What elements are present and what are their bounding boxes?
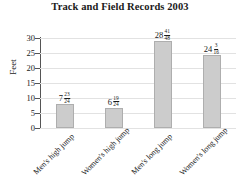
chart-title: Track and Field Records 2003 (0, 1, 240, 12)
y-axis-tick-mark (35, 83, 40, 84)
x-axis-category-label: Women's high jump (80, 132, 126, 178)
bar-value-label: 61924 (108, 96, 119, 108)
y-axis-tick-label: 20 (13, 64, 35, 73)
y-axis-tick-mark (35, 98, 40, 99)
y-axis-tick-mark (35, 38, 40, 39)
value-whole-part: 24 (204, 45, 213, 54)
gridline (40, 128, 236, 129)
value-whole-part: 7 (59, 94, 63, 103)
fraction-denominator: 16 (213, 50, 219, 56)
x-axis-category-label: Men's high jump (31, 132, 77, 178)
value-fraction: 1924 (113, 96, 119, 108)
y-axis-tick-label: 30 (13, 34, 35, 43)
fraction-denominator: 48 (164, 36, 170, 42)
gridline (40, 38, 236, 39)
y-axis-tick-label: 0 (13, 124, 35, 133)
value-fraction: 2324 (64, 92, 70, 104)
x-axis-category-label: Women's long jump (178, 132, 224, 178)
y-axis-tick-label: 10 (13, 94, 35, 103)
bar (105, 108, 123, 128)
y-axis-tick-label: 25 (13, 49, 35, 58)
y-axis-tick-mark (35, 113, 40, 114)
y-axis-tick-mark (35, 68, 40, 69)
bar (203, 55, 221, 128)
value-fraction: 316 (213, 43, 219, 55)
bar (56, 104, 74, 128)
fraction-denominator: 24 (113, 102, 119, 108)
y-axis-tick-label: 15 (13, 79, 35, 88)
x-axis-category-label: Men's long jump (129, 132, 175, 178)
value-whole-part: 28 (155, 31, 164, 40)
value-whole-part: 6 (108, 98, 112, 107)
bar-value-label: 24316 (204, 43, 220, 55)
y-axis-tick-label: 5 (13, 109, 35, 118)
y-axis-tick-mark (35, 53, 40, 54)
bar-value-label: 284148 (155, 29, 171, 41)
value-fraction: 4148 (164, 29, 170, 41)
y-axis-tick-labels: 051015202530 (10, 0, 35, 186)
bar-chart-figure: Track and Field Records 2003 Feet 051015… (0, 0, 240, 186)
bar (154, 41, 172, 128)
y-axis-tick-mark (35, 128, 40, 129)
fraction-denominator: 24 (64, 99, 70, 105)
bar-value-label: 72324 (59, 92, 70, 104)
